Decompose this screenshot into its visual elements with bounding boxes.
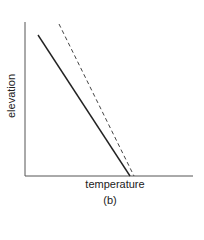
x-axis-label: temperature [70, 178, 160, 190]
solid-line [38, 35, 130, 176]
y-axis-label: elevation [5, 66, 17, 126]
figure-caption: (b) [95, 194, 125, 206]
dashed-line [59, 24, 134, 176]
